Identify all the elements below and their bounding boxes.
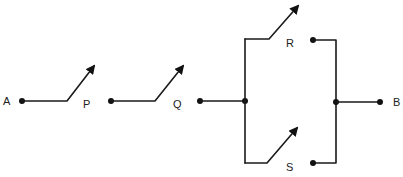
switch-p-segment: A P <box>3 66 94 110</box>
switch-q-segment: Q <box>108 66 183 110</box>
switch-label-s: S <box>286 161 293 173</box>
switch-label-p: P <box>83 98 90 110</box>
terminal-label-b: B <box>393 96 400 108</box>
switch-q-blade <box>111 66 183 101</box>
terminal-label-a: A <box>3 95 11 107</box>
switch-label-q: Q <box>173 98 182 110</box>
terminal-b-node <box>377 99 383 105</box>
parallel-branch: R S B <box>197 6 400 173</box>
switch-s-blade <box>245 128 297 163</box>
switch-r-blade <box>245 6 298 39</box>
switch-label-r: R <box>286 37 294 49</box>
circuit-diagram: A P Q R S B <box>0 0 403 177</box>
right-bus-wire <box>313 40 336 163</box>
switch-s-contact <box>310 160 316 166</box>
switch-p-blade <box>22 66 94 101</box>
